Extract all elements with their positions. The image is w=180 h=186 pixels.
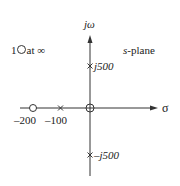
- zero-count: 1: [11, 44, 17, 56]
- plane-label-rest: -plane: [127, 44, 154, 56]
- zero-at-infinity-note: 1at ∞: [11, 45, 45, 56]
- plane-label: s-plane: [123, 45, 155, 56]
- real-axis-arrow-icon: [150, 106, 158, 111]
- tick-label-neg-100: –100: [45, 115, 67, 126]
- zero-at-infinity-text: at ∞: [27, 44, 46, 56]
- real-axis-label: σ: [162, 102, 168, 114]
- pole-neg-j500-label: –j500: [94, 150, 119, 161]
- imaginary-axis-label: jω: [84, 19, 95, 30]
- zero-neg-200-icon: [30, 105, 37, 112]
- imaginary-axis-arrow-icon: [88, 35, 93, 43]
- zero-circle-icon: [17, 45, 26, 54]
- pole-pos-j500-label: j500: [94, 61, 114, 72]
- tick-label-neg-200: –200: [14, 115, 36, 126]
